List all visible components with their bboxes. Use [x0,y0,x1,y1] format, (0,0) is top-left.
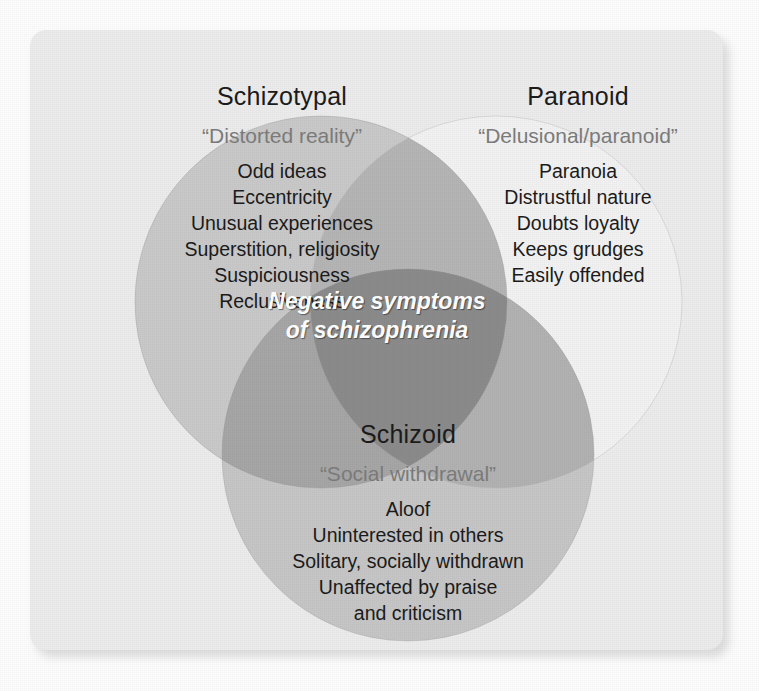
group-paranoid: Paranoid “Delusional/paranoid” Paranoia … [428,82,723,289]
venn-figure: Schizotypal “Distorted reality” Odd idea… [0,0,759,691]
group-subtitle-schizoid: “Social withdrawal” [198,462,618,486]
trait-item: Solitary, socially withdrawn [198,549,618,575]
venn-stage: Schizotypal “Distorted reality” Odd idea… [30,30,723,650]
group-title-paranoid: Paranoid [428,82,723,111]
trait-item: Uninterested in others [198,523,618,549]
trait-item: Unaffected by praise [198,575,618,601]
trait-item: Aloof [198,497,618,523]
trait-item: Distrustful nature [428,185,723,211]
trait-item: Paranoia [428,159,723,185]
trait-item: Doubts loyalty [428,211,723,237]
group-schizoid: Schizoid “Social withdrawal” Aloof Unint… [198,420,618,627]
center-intersection-label: Negative symptoms of schizophrenia [262,287,492,344]
trait-item: Easily offended [428,263,723,289]
trait-list-paranoid: Paranoia Distrustful nature Doubts loyal… [428,159,723,289]
trait-item: and criticism [198,601,618,627]
group-subtitle-paranoid: “Delusional/paranoid” [428,124,723,148]
trait-list-schizoid: Aloof Uninterested in others Solitary, s… [198,497,618,627]
group-title-schizoid: Schizoid [198,420,618,449]
trait-item: Keeps grudges [428,237,723,263]
